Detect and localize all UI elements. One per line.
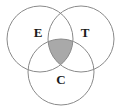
venn-diagram-canvas: E T C	[0, 0, 121, 111]
venn-label-t: T	[81, 25, 90, 40]
venn-label-e: E	[34, 25, 43, 40]
venn-diagram: E T C	[0, 0, 121, 111]
venn-label-c: C	[56, 72, 65, 87]
